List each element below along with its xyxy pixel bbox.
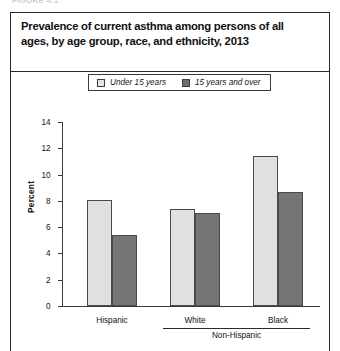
y-axis-tick: 14 [58, 122, 63, 123]
x-axis-label-hispanic: Hispanic [72, 316, 152, 325]
bar-white-15-and-over [195, 213, 220, 306]
figure-container: FIGURE 4.1 Prevalence of current asthma … [0, 0, 340, 351]
y-axis-tick: 0 [58, 306, 63, 307]
x-axis-label-white: White [155, 316, 235, 325]
bar-black-under-15 [253, 156, 278, 306]
y-axis-tick: 4 [58, 253, 63, 254]
y-axis-tick-label: 0 [46, 302, 51, 311]
legend-item-under-15: Under 15 years [97, 78, 166, 87]
y-axis-tick-label: 2 [46, 275, 51, 284]
legend-label-under-15: Under 15 years [110, 78, 166, 87]
y-axis-tick: 6 [58, 227, 63, 228]
y-axis-tick-label: 4 [46, 249, 51, 258]
bar-hispanic-15-and-over [112, 235, 137, 306]
figure-title: Prevalence of current asthma among perso… [21, 19, 311, 48]
y-axis-tick: 10 [58, 175, 63, 176]
legend-swatch-icon-under-15 [97, 79, 105, 87]
y-axis-tick-label: 12 [41, 144, 50, 153]
bar-hispanic-under-15 [87, 200, 112, 306]
legend-swatch-icon-15-and-over [182, 79, 190, 87]
chart-legend: Under 15 years 15 years and over [88, 74, 271, 91]
plot-area: 02468101214 [62, 122, 320, 306]
y-axis-label: Percent [26, 181, 36, 213]
y-axis-tick-label: 10 [41, 170, 50, 179]
bar-black-15-and-over [278, 192, 303, 306]
figure-number: FIGURE 4.1 [12, 0, 132, 6]
legend-item-15-and-over: 15 years and over [182, 78, 261, 87]
y-axis-tick-label: 8 [46, 196, 51, 205]
y-axis-tick: 12 [58, 148, 63, 149]
group-bracket-label: Non-Hispanic [163, 331, 310, 340]
y-axis-tick: 8 [58, 201, 63, 202]
x-axis-label-black: Black [238, 316, 318, 325]
group-bracket-rule [163, 328, 310, 329]
legend-label-15-and-over: 15 years and over [195, 78, 261, 87]
bar-white-under-15 [170, 209, 195, 306]
y-axis-tick-label: 6 [46, 223, 51, 232]
y-axis-tick-label: 14 [41, 118, 50, 127]
y-axis-tick: 2 [58, 280, 63, 281]
